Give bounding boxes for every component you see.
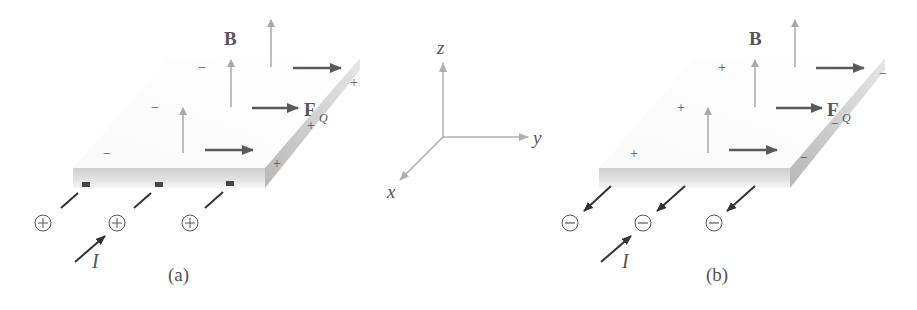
velocity-arrow	[61, 193, 78, 208]
velocity-arrow	[657, 186, 685, 211]
x-axis	[400, 137, 443, 180]
edge-charge-positive: +	[307, 118, 315, 133]
slab-front-face	[73, 168, 265, 188]
positive-carrier-icon	[35, 215, 51, 231]
negative-carrier-icon	[635, 215, 651, 231]
carrier-mark	[155, 182, 163, 187]
force-subscript: Q	[319, 111, 328, 125]
panel-caption: (b)	[706, 264, 728, 286]
carrier-velocity-arrows	[584, 186, 755, 211]
panel-a: I B F Q − − − + + + (a)	[35, 20, 360, 286]
z-axis-label: z	[436, 37, 445, 58]
carrier-mark	[226, 181, 234, 186]
positive-carrier-icon	[109, 215, 125, 231]
carrier-mark	[82, 182, 90, 187]
panel-caption: (a)	[168, 264, 189, 286]
x-axis-label: x	[386, 181, 396, 202]
negative-carriers	[562, 215, 722, 231]
velocity-arrow	[134, 193, 151, 208]
velocity-arrow	[205, 192, 223, 208]
edge-charge-positive: +	[630, 146, 638, 161]
hall-effect-diagram: I B F Q − − − + + + (a) z	[0, 0, 917, 310]
edge-charge-positive: +	[273, 156, 281, 171]
edge-charge-negative: −	[151, 100, 159, 115]
force-subscript: Q	[842, 111, 851, 125]
edge-charge-negative: −	[879, 66, 887, 81]
edge-charge-negative: −	[103, 146, 111, 161]
current-label: I	[621, 250, 630, 272]
panel-b: I B F Q + + + − − − (b)	[562, 20, 887, 286]
current-arrow	[75, 236, 105, 262]
current-label: I	[91, 250, 100, 272]
coordinate-axes: z y x	[386, 37, 542, 202]
edge-charge-negative: −	[831, 116, 839, 131]
positive-carriers	[35, 215, 198, 231]
edge-charge-negative: −	[800, 150, 808, 165]
field-label: B	[224, 28, 237, 49]
velocity-arrow	[727, 186, 755, 211]
negative-carrier-icon	[706, 215, 722, 231]
y-axis-label: y	[531, 127, 542, 148]
edge-charge-negative: −	[198, 60, 206, 75]
carrier-velocity-arrows	[61, 192, 223, 208]
edge-charge-positive: +	[677, 100, 685, 115]
slab-front-face	[599, 168, 790, 188]
force-label: F	[304, 99, 316, 120]
conductor-slab	[73, 58, 360, 188]
edge-charge-positive: +	[718, 60, 726, 75]
field-label: B	[749, 28, 762, 49]
positive-carrier-icon	[182, 215, 198, 231]
negative-carrier-icon	[562, 215, 578, 231]
velocity-arrow	[584, 186, 611, 211]
edge-charge-positive: +	[350, 75, 358, 90]
